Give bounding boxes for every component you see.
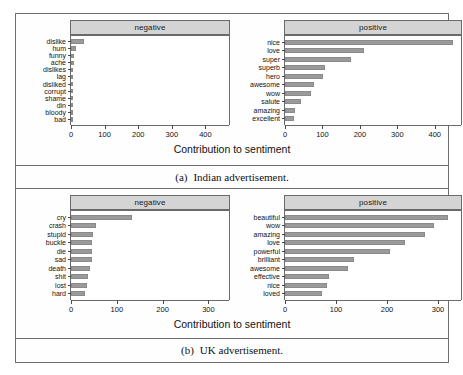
bar: [71, 82, 73, 86]
category-label: powerful: [233, 247, 285, 256]
x-axis-tick: [208, 300, 209, 304]
category-label: super: [233, 55, 285, 64]
x-axis-tick: [285, 300, 286, 304]
bar-row: [71, 222, 229, 231]
bar-row: [285, 273, 461, 282]
x-axis-tick: [71, 300, 72, 304]
category-label: amazing: [233, 106, 285, 115]
category-label: lost: [19, 281, 71, 290]
x-axis-tick: [172, 125, 173, 129]
x-axis-tick-label: 200: [132, 130, 145, 139]
bar-row: [71, 264, 229, 273]
x-axis-tick-label: 100: [111, 305, 124, 314]
x-axis-tick: [336, 300, 337, 304]
bar: [71, 96, 73, 100]
bar: [285, 215, 448, 220]
bar: [71, 54, 74, 58]
bar: [71, 232, 93, 237]
bar: [71, 257, 92, 262]
bar-row: [285, 264, 461, 273]
category-label: excellent: [233, 115, 285, 124]
bar: [285, 108, 295, 113]
bar-row: [285, 47, 461, 56]
category-label: shame: [19, 95, 71, 102]
bar-row: [71, 45, 229, 52]
category-label: crash: [19, 222, 71, 231]
bar-row: [71, 109, 229, 116]
bar: [71, 75, 73, 79]
category-label: awesome: [233, 264, 285, 273]
bar-row: [285, 115, 461, 124]
bar-row: [71, 239, 229, 248]
bar: [71, 274, 88, 279]
x-axis-tick: [285, 125, 286, 129]
bar: [285, 74, 323, 79]
bar: [285, 257, 354, 262]
category-axis-labels: crycrashstupidbucklediesaddeathshitlosth…: [19, 211, 71, 300]
x-axis-tick: [205, 125, 206, 129]
x-axis-tick-label: 300: [391, 130, 404, 139]
category-label: salute: [233, 98, 285, 107]
bar-row: [285, 106, 461, 115]
category-label: funny: [19, 52, 71, 59]
category-label: din: [19, 102, 71, 109]
bar: [71, 249, 92, 254]
x-axis-tick-label: 100: [330, 305, 343, 314]
bar-row: [71, 102, 229, 109]
bar: [285, 232, 425, 237]
x-axis-tick-label: 0: [69, 305, 73, 314]
bar: [71, 283, 87, 288]
category-label: love: [233, 47, 285, 56]
bar-row: [71, 116, 229, 123]
x-axis-tick-label: 100: [98, 130, 111, 139]
x-axis-title: Contribution to sentiment: [16, 143, 448, 155]
bar: [71, 291, 85, 296]
bar: [285, 291, 322, 296]
category-label: love: [233, 239, 285, 248]
panel-plot-box: dislikehumfunnyachedislikeslagdislikedco…: [70, 35, 230, 125]
category-label: dislikes: [19, 66, 71, 73]
category-label: loved: [233, 290, 285, 299]
bar: [285, 240, 405, 245]
bar-row: [71, 73, 229, 80]
bar: [285, 65, 325, 70]
category-label: amazing: [233, 230, 285, 239]
bar-row: [285, 55, 461, 64]
panel-plot-box: crycrashstupidbucklediesaddeathshitlosth…: [70, 210, 230, 300]
bar: [285, 283, 327, 288]
panel-b-positive: positive beautifulwowamazinglovepowerful…: [284, 195, 462, 300]
bar: [285, 249, 390, 254]
bar-row: [285, 281, 461, 290]
x-axis-tick-label: 300: [432, 305, 445, 314]
subfigure-b: negative crycrashstupidbucklediesaddeath…: [16, 188, 448, 361]
x-axis-tick: [322, 125, 323, 129]
bar: [71, 89, 73, 93]
category-label: die: [19, 247, 71, 256]
category-label: nice: [233, 281, 285, 290]
plot-area-b: negative crycrashstupidbucklediesaddeath…: [16, 189, 448, 339]
bar-row: [71, 230, 229, 239]
x-axis-tick-label: 200: [381, 305, 394, 314]
x-axis-tick-label: 200: [156, 305, 169, 314]
bar: [285, 40, 453, 45]
category-label: wow: [233, 89, 285, 98]
bar-row: [71, 256, 229, 265]
x-axis-tick-label: 100: [316, 130, 329, 139]
subfigure-a: negative dislikehumfunnyachedislikeslagd…: [16, 14, 448, 188]
x-axis-tick: [438, 300, 439, 304]
bar-row: [71, 273, 229, 282]
x-axis-tick-label: 400: [429, 130, 442, 139]
panel-a-negative: negative dislikehumfunnyachedislikeslagd…: [70, 20, 230, 125]
x-axis-tick: [397, 125, 398, 129]
bar: [71, 46, 76, 50]
x-axis-tick-label: 300: [202, 305, 215, 314]
bar: [71, 266, 90, 271]
x-axis-tick: [105, 125, 106, 129]
category-axis-labels: dislikehumfunnyachedislikeslagdislikedco…: [19, 36, 71, 125]
bar: [285, 223, 434, 228]
bar: [285, 48, 364, 53]
panel-strip-label: negative: [70, 20, 230, 35]
caption-label: (b): [181, 344, 194, 356]
x-axis-tick: [163, 300, 164, 304]
category-label: superb: [233, 64, 285, 73]
